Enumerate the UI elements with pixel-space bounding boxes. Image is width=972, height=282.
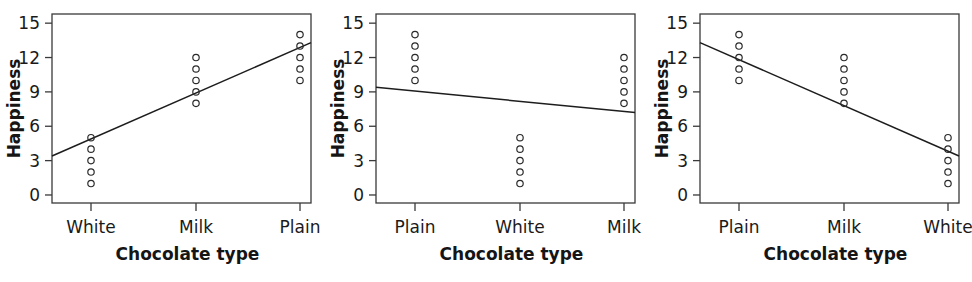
data-point [88,180,94,186]
data-point [517,135,523,141]
data-point [945,169,951,175]
panel-descending: 03691215HappinessPlainMilkWhiteChocolate… [648,0,972,282]
x-tick-label-white: White [923,217,972,237]
panel-canvas: 03691215HappinessPlainMilkWhiteChocolate… [648,0,972,282]
scatter-plot-figure: 03691215HappinessWhiteMilkPlainChocolate… [0,0,972,282]
data-point [945,180,951,186]
data-point [621,54,627,60]
regression-line [700,43,959,156]
x-tick-label-white: White [66,217,115,237]
x-axis: PlainWhiteMilk [395,203,642,237]
y-tick-label: 9 [677,82,688,102]
regression-line [52,43,311,156]
x-axis-title: Chocolate type [116,244,260,264]
regression-line [376,87,635,112]
x-axis-title: Chocolate type [440,244,584,264]
data-point [297,31,303,37]
x-tick-label-white: White [495,217,544,237]
y-tick-label: 3 [29,151,40,171]
data-point [621,66,627,72]
y-tick-label: 0 [29,185,40,205]
data-points [88,31,303,186]
data-point [841,89,847,95]
data-point [736,66,742,72]
data-point [297,77,303,83]
data-point [517,146,523,152]
data-point [621,89,627,95]
x-axis: WhiteMilkPlain [66,203,320,237]
x-tick-label-milk: Milk [179,217,213,237]
data-point [412,31,418,37]
panel-ascending: 03691215HappinessWhiteMilkPlainChocolate… [0,0,324,282]
y-tick-label: 9 [353,82,364,102]
data-point [193,54,199,60]
x-axis-title: Chocolate type [764,244,908,264]
data-point [517,169,523,175]
y-tick-label: 15 [342,13,364,33]
x-tick-label-milk: Milk [607,217,641,237]
data-point [841,54,847,60]
data-point [736,31,742,37]
y-tick-label: 0 [677,185,688,205]
data-point [412,43,418,49]
x-tick-label-plain: Plain [719,217,760,237]
data-point [517,157,523,163]
panel-canvas: 03691215HappinessWhiteMilkPlainChocolate… [0,0,324,282]
x-tick-label-plain: Plain [395,217,436,237]
data-point [945,157,951,163]
data-point [841,66,847,72]
x-tick-label-milk: Milk [827,217,861,237]
y-tick-label: 6 [677,116,688,136]
data-point [297,66,303,72]
y-tick-label: 6 [353,116,364,136]
data-point [621,100,627,106]
data-point [193,77,199,83]
data-point [412,54,418,60]
y-axis-title: Happiness [4,59,24,159]
data-point [412,77,418,83]
data-point [88,169,94,175]
x-axis: PlainMilkWhite [719,203,972,237]
data-point [736,43,742,49]
plot-frame [52,14,311,203]
data-point [193,100,199,106]
y-axis-title: Happiness [652,59,672,159]
data-points [736,31,951,186]
data-point [297,54,303,60]
data-point [736,77,742,83]
y-tick-label: 15 [666,13,688,33]
panel-flat: 03691215HappinessPlainWhiteMilkChocolate… [324,0,648,282]
data-point [88,157,94,163]
data-point [193,66,199,72]
y-axis-title: Happiness [328,59,348,159]
x-tick-label-plain: Plain [280,217,321,237]
y-tick-label: 3 [353,151,364,171]
panel-canvas: 03691215HappinessPlainWhiteMilkChocolate… [324,0,648,282]
data-point [517,180,523,186]
y-tick-label: 6 [29,116,40,136]
data-point [621,77,627,83]
data-point [412,66,418,72]
data-point [945,135,951,141]
y-tick-label: 3 [677,151,688,171]
data-point [88,146,94,152]
y-tick-label: 9 [29,82,40,102]
data-point [841,77,847,83]
y-tick-label: 15 [18,13,40,33]
y-tick-label: 0 [353,185,364,205]
